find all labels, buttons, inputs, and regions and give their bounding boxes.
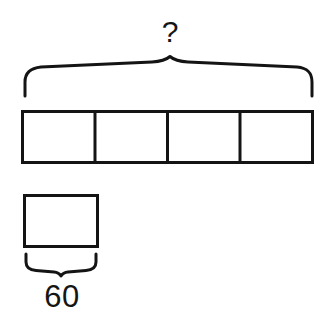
unit-bar xyxy=(25,196,98,247)
unit-value-label: 60 xyxy=(22,280,102,314)
total-bar xyxy=(23,112,313,163)
bar-model-diagram: ? 60 xyxy=(0,0,329,319)
curly-brace-up-icon xyxy=(25,57,312,97)
curly-brace-down-icon xyxy=(26,254,96,276)
unit-bar-outline xyxy=(25,196,98,247)
total-value-label: ? xyxy=(152,16,188,48)
